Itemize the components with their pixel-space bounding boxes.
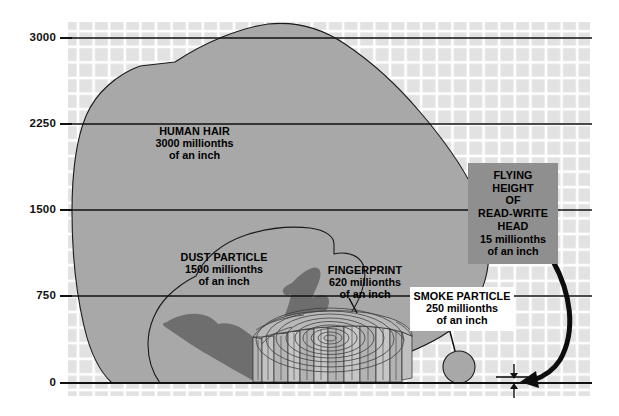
flying-height-value: 15 millionths xyxy=(475,233,551,245)
flying-height-line5: HEAD xyxy=(475,220,551,233)
label-dust-particle: DUST PARTICLE 1500 millionths of an inch xyxy=(149,251,299,287)
axis-tick-750: 750 xyxy=(8,289,56,301)
flying-height-line1: FLYING xyxy=(475,169,551,182)
human-hair-suffix: of an inch xyxy=(122,149,267,161)
label-smoke-particle: SMOKE PARTICLE 250 millionths of an inch xyxy=(410,287,514,331)
flying-height-line2: HEIGHT xyxy=(475,182,551,195)
flying-height-line4: READ-WRITE xyxy=(475,207,551,220)
human-hair-value: 3000 millionths xyxy=(122,137,267,149)
axis-tick-1500: 1500 xyxy=(8,203,56,215)
fingerprint-shape xyxy=(253,308,412,382)
axis-tick-3000: 3000 xyxy=(8,31,56,43)
label-fingerprint: FINGERPRINT 620 millionths of an inch xyxy=(309,264,421,300)
fingerprint-suffix: of an inch xyxy=(309,288,421,300)
flying-height-line3: OF xyxy=(475,194,551,207)
axis-tick-2250: 2250 xyxy=(8,117,56,129)
smoke-particle-suffix: of an inch xyxy=(412,314,512,326)
axis-tick-0: 0 xyxy=(8,376,56,388)
dust-particle-value: 1500 millionths xyxy=(149,263,299,275)
label-human-hair: HUMAN HAIR 3000 millionths of an inch xyxy=(122,125,267,161)
fingerprint-value: 620 millionths xyxy=(309,276,421,288)
dust-particle-name: DUST PARTICLE xyxy=(149,251,299,263)
human-hair-name: HUMAN HAIR xyxy=(122,125,267,137)
smoke-particle-name: SMOKE PARTICLE xyxy=(412,290,512,302)
label-flying-height: FLYING HEIGHT OF READ-WRITE HEAD 15 mill… xyxy=(468,163,558,264)
fingerprint-name: FINGERPRINT xyxy=(309,264,421,276)
dust-particle-suffix: of an inch xyxy=(149,275,299,287)
diagram-canvas: 3000 2250 1500 750 0 HUMAN HAIR 3000 mil… xyxy=(0,0,619,416)
smoke-particle-shape xyxy=(443,351,475,383)
flying-height-suffix: of an inch xyxy=(475,245,551,257)
smoke-particle-value: 250 millionths xyxy=(412,302,512,314)
